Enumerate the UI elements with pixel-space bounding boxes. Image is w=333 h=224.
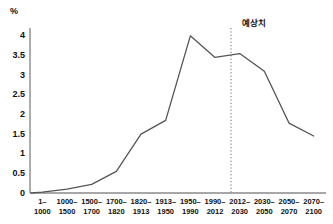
x-tick-label-line: 2012– [227, 197, 252, 207]
x-tick-label-line: 2050 [252, 207, 277, 217]
x-tick-label-line: 1913– [153, 197, 178, 207]
x-tick-label-line: 1500– [79, 197, 104, 207]
x-tick-label: 1820–1913 [129, 197, 154, 217]
x-tick-label-line: 1990– [203, 197, 228, 207]
x-tick-label: 1950–1990 [178, 197, 203, 217]
x-tick-label: 1913–1950 [153, 197, 178, 217]
x-tick-label-line: 1700– [104, 197, 129, 207]
x-tick-label-line: 2050– [277, 197, 302, 207]
x-tick-label-line: 1820 [104, 207, 129, 217]
x-tick-label: 2050–2070 [277, 197, 302, 217]
x-tick-label: 1990–2012 [203, 197, 228, 217]
x-tick-label-line: 1000 [30, 207, 55, 217]
x-tick-label-line: 2070 [277, 207, 302, 217]
x-tick-label: 1000–1500 [55, 197, 80, 217]
x-tick-label-line: 2100 [301, 207, 326, 217]
x-tick-label-line: 1– [30, 197, 55, 207]
x-tick-label-line: 1913 [129, 207, 154, 217]
x-tick-label: 2030–2050 [252, 197, 277, 217]
plot-area [0, 0, 333, 224]
x-tick-label-line: 1820– [129, 197, 154, 207]
x-tick-label-line: 1990 [178, 207, 203, 217]
x-tick-label: 1–1000 [30, 197, 55, 217]
x-tick-label-line: 2030– [252, 197, 277, 207]
x-tick-label: 1700–1820 [104, 197, 129, 217]
x-tick-label: 1500–1700 [79, 197, 104, 217]
x-tick-label-line: 1950– [178, 197, 203, 207]
x-tick-label-line: 1500 [55, 207, 80, 217]
x-tick-label-line: 1000– [55, 197, 80, 207]
data-series-line [31, 36, 314, 193]
x-tick-label: 2012–2030 [227, 197, 252, 217]
x-tick-label-line: 2070– [301, 197, 326, 207]
x-tick-label-line: 1950 [153, 207, 178, 217]
x-tick-label-line: 1700 [79, 207, 104, 217]
x-tick-label: 2070–2100 [301, 197, 326, 217]
growth-rate-line-chart: % 00.511.522.533.54 1–10001000–15001500–… [0, 0, 333, 224]
forecast-annotation-label: 예상치 [242, 16, 266, 28]
x-tick-label-line: 2012 [203, 207, 228, 217]
x-tick-label-line: 2030 [227, 207, 252, 217]
